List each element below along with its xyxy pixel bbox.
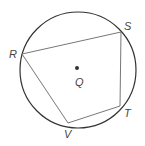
- diagram-canvas: Q R S T V: [0, 0, 145, 146]
- label-t: T: [124, 107, 132, 119]
- label-s: S: [124, 20, 132, 32]
- label-r: R: [9, 48, 17, 60]
- label-v: V: [64, 128, 73, 140]
- circle-q: [20, 12, 136, 128]
- center-point-q: [75, 66, 79, 70]
- geometry-diagram: Q R S T V: [0, 0, 145, 146]
- quadrilateral-rstv: [22, 32, 121, 123]
- label-q: Q: [75, 76, 84, 88]
